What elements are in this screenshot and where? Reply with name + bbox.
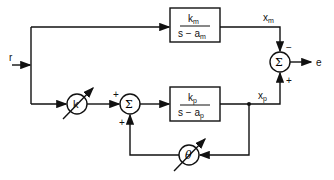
xm-line bbox=[220, 27, 280, 51]
output-label: e bbox=[316, 57, 322, 68]
sum-middle-sign-left: + bbox=[113, 89, 119, 100]
xp-label: xp bbox=[258, 90, 267, 103]
plant-denominator: s − ap bbox=[178, 107, 204, 120]
model-numerator: km bbox=[188, 13, 199, 25]
input-label: r bbox=[9, 52, 13, 63]
xm-label: xm bbox=[263, 12, 274, 24]
sum-right-symbol: Σ bbox=[275, 56, 283, 69]
xp-line bbox=[220, 73, 280, 104]
sum-middle-symbol: Σ bbox=[125, 98, 133, 111]
gain-theta-label: θ bbox=[185, 149, 192, 162]
sum-middle-sign-bottom: + bbox=[119, 117, 125, 128]
branch-point bbox=[247, 102, 251, 106]
gain-k-label: k bbox=[73, 98, 79, 110]
sum-right-sign-top: − bbox=[286, 42, 292, 53]
plant-numerator: kp bbox=[188, 92, 197, 105]
sum-right-sign-bottom: + bbox=[286, 75, 292, 86]
feedback-line bbox=[200, 104, 249, 155]
block-diagram: r e km s − am kp s − ap k θ Σ Σ + + − + … bbox=[0, 0, 334, 180]
model-denominator: s − am bbox=[178, 28, 206, 40]
